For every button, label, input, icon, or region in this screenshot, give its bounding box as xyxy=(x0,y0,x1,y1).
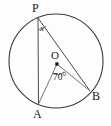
label-center-o: O xyxy=(51,50,59,61)
label-point-a: A xyxy=(33,108,42,120)
label-point-p: P xyxy=(32,2,39,14)
label-inscribed-angle-x: x xyxy=(40,24,44,33)
chord-pa-line xyxy=(38,18,39,104)
label-point-b: B xyxy=(92,90,100,102)
circle-outline xyxy=(9,14,103,108)
center-point-dot xyxy=(55,62,58,65)
circle-diagram-canvas xyxy=(0,0,111,126)
radius-oa-line xyxy=(39,64,58,104)
label-central-angle-70: 70° xyxy=(53,73,66,83)
geometry-figure: P A B O x 70° xyxy=(0,0,111,126)
